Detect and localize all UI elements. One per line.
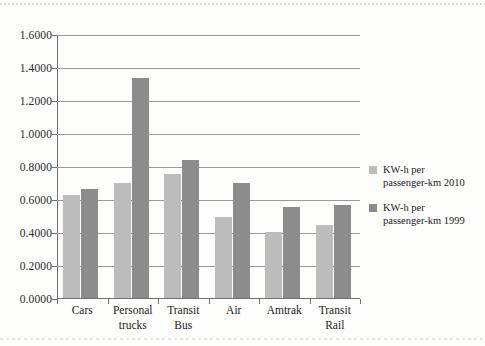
y-axis-tick	[52, 134, 57, 135]
bar	[63, 195, 80, 298]
x-axis-category-label-line: Air	[209, 303, 260, 318]
legend-label-line: KW-h per	[383, 163, 465, 176]
y-axis-tick	[52, 68, 57, 69]
legend-item: KW-h perpassenger-km 2010	[369, 163, 481, 189]
bar-group	[210, 35, 261, 298]
y-axis-tick	[52, 266, 57, 267]
x-axis-category-labels: CarsPersonaltrucksTransitBusAirAmtrakTra…	[57, 303, 360, 345]
x-axis-category-label-line: trucks	[108, 318, 159, 333]
bar-group	[260, 35, 311, 298]
y-axis-tick-label: 0.6000	[0, 194, 52, 206]
x-axis-category-label: TransitRail	[310, 303, 361, 333]
y-axis-tick	[52, 101, 57, 102]
legend-label-line: KW-h per	[383, 201, 465, 214]
bar-group	[58, 35, 109, 298]
bar	[265, 232, 282, 298]
bar	[215, 217, 232, 298]
x-axis-category-label-line: Amtrak	[259, 303, 310, 318]
bar	[316, 225, 333, 298]
scan-artifact-top	[0, 3, 485, 5]
chart-legend: KW-h perpassenger-km 2010KW-h perpasseng…	[369, 163, 481, 239]
y-axis-tick-label: 1.4000	[0, 62, 52, 74]
x-axis-category-label-line: Personal	[108, 303, 159, 318]
y-axis-tick-label: 0.2000	[0, 260, 52, 272]
x-axis-category-label: Air	[209, 303, 260, 318]
bar	[164, 174, 181, 298]
bar	[334, 205, 351, 298]
x-axis-tick	[360, 299, 361, 304]
y-axis-tick	[52, 35, 57, 36]
chart-page: 0.00000.20000.40000.60000.80001.00001.20…	[0, 0, 485, 346]
legend-item: KW-h perpassenger-km 1999	[369, 201, 481, 227]
plot-area	[57, 35, 360, 299]
x-axis-category-label: TransitBus	[158, 303, 209, 333]
legend-label-line: passenger-km 1999	[383, 214, 465, 227]
y-axis-tick-label: 0.0000	[0, 293, 52, 305]
y-axis-tick-label: 1.2000	[0, 95, 52, 107]
y-axis-tick	[52, 233, 57, 234]
bar	[233, 183, 250, 299]
bar-group	[109, 35, 160, 298]
x-axis-category-label: Personaltrucks	[108, 303, 159, 333]
x-axis-category-label-line: Transit	[158, 303, 209, 318]
x-axis-category-label: Amtrak	[259, 303, 310, 318]
x-axis-category-label-line: Transit	[310, 303, 361, 318]
x-axis-category-label-line: Rail	[310, 318, 361, 333]
legend-label-line: passenger-km 2010	[383, 176, 465, 189]
bar	[132, 78, 149, 298]
bar-group	[159, 35, 210, 298]
y-axis-tick	[52, 167, 57, 168]
legend-label: KW-h perpassenger-km 1999	[383, 201, 465, 227]
bar-group	[311, 35, 362, 298]
x-axis-category-label-line: Bus	[158, 318, 209, 333]
bar	[114, 183, 131, 298]
legend-swatch-icon	[369, 166, 377, 174]
y-axis-tick-label: 1.0000	[0, 128, 52, 140]
y-axis-tick-labels: 0.00000.20000.40000.60000.80001.00001.20…	[0, 35, 52, 299]
x-axis-category-label-line: Cars	[57, 303, 108, 318]
y-axis-tick-label: 0.8000	[0, 161, 52, 173]
y-axis-tick-label: 1.6000	[0, 29, 52, 41]
legend-swatch-icon	[369, 204, 377, 212]
bar	[283, 207, 300, 298]
bar	[81, 189, 98, 298]
x-axis-category-label: Cars	[57, 303, 108, 318]
y-axis-tick-label: 0.4000	[0, 227, 52, 239]
bar	[182, 160, 199, 298]
y-axis-tick	[52, 200, 57, 201]
legend-label: KW-h perpassenger-km 2010	[383, 163, 465, 189]
bar-series-container	[58, 35, 360, 298]
